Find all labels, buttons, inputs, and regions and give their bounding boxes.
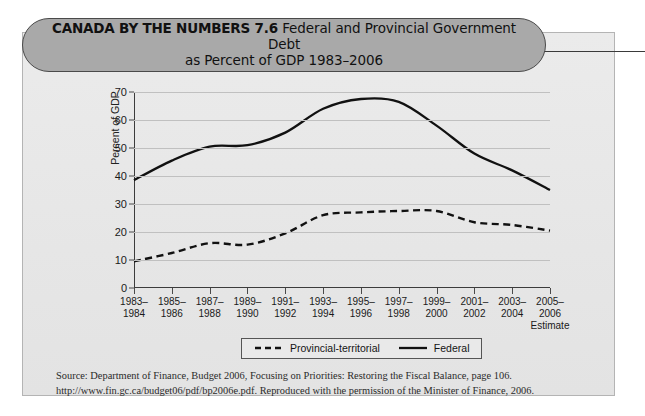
chart-legend: Provincial-territorialFederal: [241, 338, 482, 359]
x-tick-label: 2005–2006Estimate: [531, 296, 570, 333]
x-tick-mark: [474, 288, 475, 294]
gridline: [134, 232, 550, 233]
figure-root: CANADA BY THE NUMBERS 7.6 Federal and Pr…: [0, 0, 645, 416]
y-tick-label: 10: [115, 254, 134, 266]
x-tick-label: 1983–1984: [120, 296, 148, 320]
x-tick-label-bottom: 2006: [531, 308, 570, 320]
x-tick-label-bottom: 1996: [347, 308, 375, 320]
gridline: [134, 176, 550, 177]
x-tick-label: 1991–1992: [271, 296, 299, 320]
figure-kicker: CANADA BY THE NUMBERS 7.6: [52, 20, 278, 36]
x-tick-label-bottom: 2000: [423, 308, 451, 320]
legend-label: Provincial-territorial: [290, 342, 380, 354]
x-tick-mark: [550, 288, 551, 294]
x-tick-label: 2001–2002: [460, 296, 488, 320]
x-tick-label-bottom: 2004: [498, 308, 526, 320]
y-tick-label: 50: [115, 142, 134, 154]
x-tick-mark: [285, 288, 286, 294]
x-tick-mark: [134, 288, 135, 294]
x-tick-label-bottom: 1990: [234, 308, 262, 320]
x-tick-label: 2003–2004: [498, 296, 526, 320]
y-tick-label: 0: [121, 282, 134, 294]
figure-title-line2: as Percent of GDP 1983–2006: [41, 53, 527, 69]
gridline: [134, 120, 550, 121]
y-tick-label: 20: [115, 226, 134, 238]
legend-swatch-solid: [398, 344, 428, 352]
x-tick-label: 1995–1996: [347, 296, 375, 320]
title-rule: [540, 51, 645, 52]
series-layer: [134, 92, 550, 288]
x-tick-mark: [323, 288, 324, 294]
x-tick-label: 1993–1994: [309, 296, 337, 320]
x-tick-mark: [512, 288, 513, 294]
plot-area: 0102030405060701983–19841985–19861987–19…: [134, 92, 550, 288]
y-tick-label: 70: [115, 86, 134, 98]
x-tick-label-top: 2003–: [498, 296, 526, 308]
y-tick-label: 30: [115, 198, 134, 210]
source-line-2: http://www.fin.gc.ca/budget06/pdf/bp2006…: [56, 384, 602, 399]
x-tick-label-bottom: 1986: [158, 308, 186, 320]
chart: Percent of GDP 0102030405060701983–19841…: [112, 56, 567, 301]
x-tick-label-top: 1993–: [309, 296, 337, 308]
y-tick-label: 60: [115, 114, 134, 126]
x-tick-label-bottom: 1988: [196, 308, 224, 320]
x-tick-label-bottom: 2002: [460, 308, 488, 320]
x-tick-label: 1989–1990: [234, 296, 262, 320]
x-tick-label-bottom: 1998: [385, 308, 413, 320]
title-text: CANADA BY THE NUMBERS 7.6 Federal and Pr…: [23, 21, 545, 69]
y-tick-label: 40: [115, 170, 134, 182]
x-tick-label-top: 2005–: [531, 296, 570, 308]
gridline: [134, 92, 550, 93]
x-tick-mark: [399, 288, 400, 294]
x-tick-label: 1997–1998: [385, 296, 413, 320]
x-tick-label-top: 2001–: [460, 296, 488, 308]
source-note: Source: Department of Finance, Budget 20…: [56, 369, 602, 399]
x-tick-label: 1987–1988: [196, 296, 224, 320]
gridline: [134, 260, 550, 261]
legend-label: Federal: [434, 342, 470, 354]
x-tick-mark: [437, 288, 438, 294]
legend-item-provincial-territorial: Provincial-territorial: [254, 342, 380, 354]
x-tick-label-top: 1985–: [158, 296, 186, 308]
series-line-provincial-territorial: [134, 210, 550, 261]
x-tick-label-top: 1987–: [196, 296, 224, 308]
x-tick-label-top: 1983–: [120, 296, 148, 308]
x-tick-mark: [210, 288, 211, 294]
x-tick-label-top: 1995–: [347, 296, 375, 308]
x-tick-label-bottom: 1984: [120, 308, 148, 320]
x-tick-label-bottom: 1992: [271, 308, 299, 320]
x-tick-label-top: 1989–: [234, 296, 262, 308]
title-banner: CANADA BY THE NUMBERS 7.6 Federal and Pr…: [22, 18, 546, 72]
legend-swatch-dashed: [254, 344, 284, 352]
x-tick-label-bottom: 1994: [309, 308, 337, 320]
figure-title-line1: Federal and Provincial Government Debt: [268, 20, 516, 52]
x-tick-label-top: 1991–: [271, 296, 299, 308]
gridline: [134, 148, 550, 149]
x-axis-estimate-note: Estimate: [531, 320, 570, 332]
x-tick-mark: [361, 288, 362, 294]
x-tick-mark: [247, 288, 248, 294]
x-tick-label-top: 1997–: [385, 296, 413, 308]
x-tick-mark: [172, 288, 173, 294]
x-tick-label: 1999–2000: [423, 296, 451, 320]
source-line-1: Source: Department of Finance, Budget 20…: [56, 369, 602, 384]
x-tick-label-top: 1999–: [423, 296, 451, 308]
gridline: [134, 204, 550, 205]
x-tick-label: 1985–1986: [158, 296, 186, 320]
legend-item-federal: Federal: [398, 342, 470, 354]
